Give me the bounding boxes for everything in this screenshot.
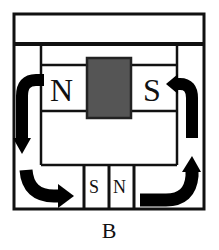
left-down-arrow-icon	[13, 80, 44, 154]
bottom-magnet-north-label: N	[113, 177, 126, 197]
bottom-left-curve-arrow-icon	[26, 170, 74, 208]
bottom-magnet-south-label: S	[89, 177, 99, 197]
right-up-arrow-icon	[166, 74, 192, 138]
magnetic-circuit-diagram: N S S N B	[0, 0, 219, 250]
bottom-right-curve-arrow-icon	[140, 156, 201, 200]
top-magnet-north-label: N	[50, 72, 73, 108]
top-magnet-south-label: S	[143, 72, 161, 108]
diagram-caption: B	[102, 218, 117, 243]
top-magnet: N S	[50, 58, 161, 118]
magnet-core	[87, 58, 131, 118]
